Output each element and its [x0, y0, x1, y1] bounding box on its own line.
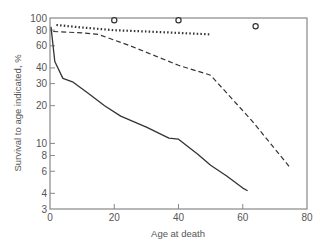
x-tick-label: 20 [109, 212, 121, 223]
y-tick-label: 80 [36, 25, 48, 36]
data-marker-circle [253, 24, 258, 29]
axes: 3468102030406080100020406080 [30, 13, 313, 224]
series-group [51, 18, 291, 191]
x-axis-title: Age at death [151, 228, 205, 239]
series-line-solid [51, 27, 248, 191]
y-tick-label: 6 [41, 166, 47, 177]
y-tick-label: 60 [36, 40, 48, 51]
y-axis-title: Survival to age indicated, % [12, 54, 23, 172]
x-tick-label: 40 [173, 212, 185, 223]
data-marker-circle [176, 18, 181, 23]
y-tick-label: 10 [36, 138, 48, 149]
y-tick-label: 20 [36, 100, 48, 111]
y-tick-label: 8 [41, 150, 47, 161]
x-tick-label: 80 [301, 212, 313, 223]
series-line-dashed [53, 32, 291, 169]
y-tick-label: 100 [30, 13, 47, 24]
x-tick-label: 60 [237, 212, 249, 223]
plot-frame [50, 18, 307, 209]
x-tick-label: 0 [47, 212, 53, 223]
survival-chart: 3468102030406080100020406080 Age at deat… [0, 0, 326, 242]
data-marker-circle [112, 18, 117, 23]
y-tick-label: 4 [41, 188, 47, 199]
y-tick-label: 40 [36, 62, 48, 73]
y-tick-label: 30 [36, 78, 48, 89]
